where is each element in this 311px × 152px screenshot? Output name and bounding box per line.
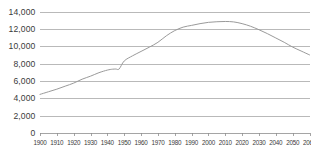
- x-tick-label: 1920: [67, 139, 81, 146]
- y-tick-label: 6,000: [13, 76, 35, 86]
- x-axis-labels-group: 1900191019201930194019501960197019801990…: [33, 139, 311, 146]
- x-tick-label: 1950: [118, 139, 132, 146]
- x-tick-label: 2020: [236, 139, 250, 146]
- y-tick-label: 10,000: [9, 41, 36, 51]
- x-tick-label: 2010: [219, 139, 233, 146]
- x-tick-label: 1940: [101, 139, 115, 146]
- data-series-group: [40, 21, 310, 94]
- x-tick-label: 1930: [84, 139, 98, 146]
- x-tick-label: 1980: [168, 139, 182, 146]
- chart-canvas: 02,0004,0006,0008,00010,00012,00014,000 …: [0, 0, 311, 152]
- y-tick-label: 8,000: [13, 59, 35, 69]
- y-axis-labels-group: 02,0004,0006,0008,00010,00012,00014,000: [9, 7, 36, 139]
- x-tick-label: 2050: [286, 139, 300, 146]
- series-line-population: [40, 21, 310, 94]
- y-tick-label: 14,000: [9, 7, 36, 17]
- line-chart: 02,0004,0006,0008,00010,00012,00014,000 …: [0, 0, 311, 152]
- x-tick-label: 1960: [135, 139, 149, 146]
- x-tick-label: 1990: [185, 139, 199, 146]
- y-tick-label: 12,000: [9, 24, 36, 34]
- x-tick-label: 1910: [50, 139, 64, 146]
- x-tick-label: 2000: [202, 139, 216, 146]
- x-tick-label: 1900: [33, 139, 47, 146]
- x-tick-label: 2040: [269, 139, 283, 146]
- x-tick-label: 1970: [151, 139, 165, 146]
- y-tick-label: 4,000: [13, 93, 35, 103]
- x-tick-label: 2030: [252, 139, 266, 146]
- x-tick-label: 2060: [303, 139, 311, 146]
- y-tick-label: 0: [31, 128, 36, 138]
- y-tick-label: 2,000: [13, 111, 35, 121]
